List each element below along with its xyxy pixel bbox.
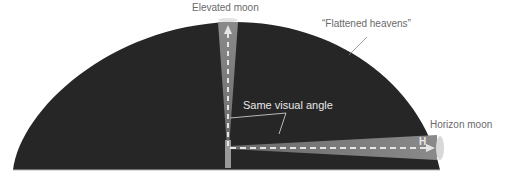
flattened-heavens-label: “Flattened heavens” bbox=[322, 18, 411, 29]
elevated-moon bbox=[218, 18, 238, 22]
horizon-moon bbox=[436, 136, 444, 160]
moon-illusion-diagram bbox=[0, 0, 511, 185]
heavens-leader-line bbox=[349, 37, 367, 55]
h-marker: H bbox=[419, 136, 426, 147]
same-visual-angle-label: Same visual angle bbox=[243, 99, 333, 111]
elevated-moon-label: Elevated moon bbox=[192, 2, 259, 13]
horizon-moon-label: Horizon moon bbox=[430, 119, 492, 130]
